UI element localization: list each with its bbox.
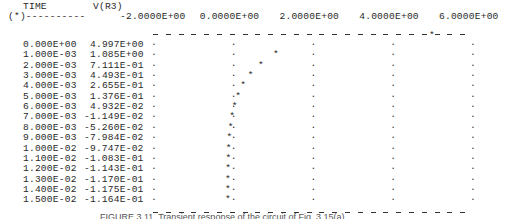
grid-dot: .: [311, 131, 317, 141]
grid-dash: [371, 212, 376, 213]
tick-label: -2.0000E+00: [120, 12, 186, 22]
grid-dot: .: [470, 79, 476, 89]
grid-dash: [409, 212, 414, 213]
time-value: 1.500E-02: [23, 195, 77, 205]
grid-dash: [179, 34, 184, 35]
grid-dot: .: [231, 79, 237, 89]
grid-dash: [230, 34, 235, 35]
grid-dash: [383, 212, 388, 213]
grid-dot: .: [470, 193, 476, 203]
grid-dash: [332, 34, 337, 35]
grid-dot: .: [151, 131, 157, 141]
grid-dot: .: [151, 193, 157, 203]
vr3-value: 1.085E+00: [90, 50, 144, 60]
grid-dot: .: [390, 162, 396, 172]
grid-dot: .: [151, 110, 157, 120]
grid-dash: [422, 34, 427, 35]
grid-dash: [371, 34, 376, 35]
grid-dot: .: [390, 131, 396, 141]
grid-dash: [217, 34, 222, 35]
tick-label: 6.0000E+00: [439, 12, 499, 22]
time-value: 1.000E-02: [23, 144, 77, 154]
grid-dot: .: [311, 193, 317, 203]
grid-dot: .: [311, 162, 317, 172]
grid-dot: .: [311, 110, 317, 120]
grid-dot: .: [231, 48, 237, 58]
vr3-value: -7.984E-02: [84, 133, 144, 143]
grid-dash: [166, 34, 171, 35]
figure-caption: FIGURE 3.11 Transient response of the ci…: [100, 212, 344, 219]
time-value: 9.000E-03: [23, 133, 77, 143]
grid-dash: [383, 34, 388, 35]
grid-dash: [460, 34, 465, 35]
grid-dash: [447, 212, 452, 213]
grid-dash: [345, 34, 350, 35]
grid-dot: .: [470, 162, 476, 172]
grid-dot: .: [470, 110, 476, 120]
grid-dash: [358, 212, 363, 213]
grid-dash: [435, 34, 440, 35]
grid-dash: [191, 34, 196, 35]
data-point-marker: *: [248, 71, 254, 81]
grid-dot: .: [311, 142, 317, 152]
grid-dot: .: [231, 162, 237, 172]
data-point-marker: *: [429, 31, 435, 41]
grid-dash: [281, 34, 286, 35]
grid-dash: [268, 34, 273, 35]
vr3-value: -9.747E-02: [84, 144, 144, 154]
grid-dot: .: [390, 142, 396, 152]
grid-dot: .: [470, 48, 476, 58]
grid-dot: .: [470, 131, 476, 141]
grid-dash: [255, 34, 260, 35]
grid-dash: [243, 34, 248, 35]
time-value: 1.000E-03: [23, 50, 77, 60]
grid-dot: .: [390, 79, 396, 89]
vr3-value: -1.149E-02: [84, 112, 144, 122]
grid-dash: [447, 34, 452, 35]
vr3-value: -1.164E-01: [84, 195, 144, 205]
time-column-marker: (*)----------: [8, 12, 85, 22]
time-value: 1.200E-02: [23, 164, 77, 174]
grid-dot: .: [311, 48, 317, 58]
grid-dash: [358, 34, 363, 35]
data-point-marker: *: [240, 81, 246, 91]
grid-dash: [294, 34, 299, 35]
grid-dot: .: [151, 142, 157, 152]
grid-dot: .: [151, 162, 157, 172]
grid-dash: [345, 212, 350, 213]
grid-dash: [422, 212, 427, 213]
tick-label: 4.0000E+00: [359, 12, 419, 22]
grid-dot: .: [390, 110, 396, 120]
grid-dash: [409, 34, 414, 35]
tick-label: 2.0000E+00: [280, 12, 340, 22]
grid-dash: [153, 34, 158, 35]
vr3-column-label: V(R3): [93, 2, 123, 12]
grid-dot: .: [311, 79, 317, 89]
grid-dash: [204, 34, 209, 35]
grid-dot: .: [151, 79, 157, 89]
grid-dash: [319, 34, 324, 35]
vr3-value: 2.655E-01: [90, 81, 144, 91]
grid-dot: .: [470, 142, 476, 152]
grid-dash: [460, 212, 465, 213]
grid-dot: .: [231, 193, 237, 203]
time-value: 4.000E-03: [23, 81, 77, 91]
time-value: 7.000E-03: [23, 112, 77, 122]
grid-dot: .: [390, 193, 396, 203]
data-point-marker: *: [258, 61, 264, 71]
grid-dot: .: [390, 48, 396, 58]
vr3-value: -1.143E-01: [84, 164, 144, 174]
grid-dash: [396, 212, 401, 213]
grid-dot: .: [151, 48, 157, 58]
grid-dash: [396, 34, 401, 35]
grid-dash: [307, 34, 312, 35]
grid-dash: [435, 212, 440, 213]
data-point-marker: *: [225, 195, 231, 205]
tick-label: 0.0000E+00: [200, 12, 260, 22]
data-point-marker: *: [273, 50, 279, 60]
